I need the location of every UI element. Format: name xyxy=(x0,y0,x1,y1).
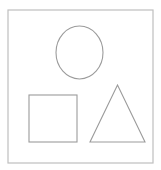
shapes-svg xyxy=(0,0,161,170)
figure-canvas: Geometric shapes line drawing circle squ… xyxy=(0,0,161,170)
